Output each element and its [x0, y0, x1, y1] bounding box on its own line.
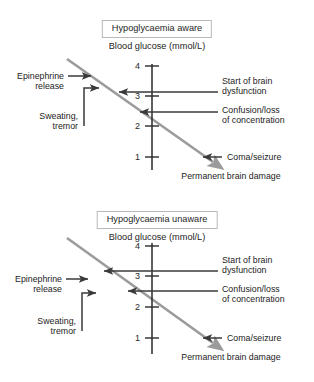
label-start-of-brain-dysfunction-aware: Start of brain dysfunction: [222, 76, 272, 96]
y-tick-label-2: 2: [128, 121, 140, 131]
sweating-line2: tremor: [53, 121, 78, 131]
label-confusion-loss-aware: Confusion/loss of concentration: [222, 105, 285, 125]
epinephrine-line2: release: [35, 81, 64, 91]
panel-title-aware: Hypoglycaemia aware: [102, 20, 212, 38]
label-sweating-tremor-aware: Sweating, tremor: [6, 111, 78, 131]
y-tick-label-3: 3: [128, 91, 140, 101]
y-tick-label-4: 4: [128, 61, 140, 71]
brain-line1: Start of brain: [222, 76, 272, 86]
hypoglycaemia-awareness-figure: Hypoglycaemia aware Blood glucose (mmol/…: [0, 0, 314, 382]
label-confusion-loss-unaware: Confusion/loss of concentration: [222, 284, 285, 304]
confusion-line2: of concentration: [222, 115, 285, 125]
glucose-decline-line: [67, 59, 213, 162]
label-permanent-brain-damage-aware: Permanent brain damage: [155, 171, 307, 181]
brain-line2: dysfunction: [222, 265, 267, 275]
panel-title-unaware: Hypoglycaemia unaware: [97, 211, 218, 229]
label-permanent-brain-damage-unaware: Permanent brain damage: [155, 352, 307, 362]
epinephrine-line1: Epinephrine: [17, 71, 64, 81]
epinephrine-line1: Epinephrine: [15, 274, 62, 284]
sweating-line2: tremor: [51, 326, 76, 336]
y-tick-label-1: 1: [128, 333, 140, 343]
y-axis-caption: Blood glucose (mmol/L): [109, 41, 206, 52]
panel-hypoglycaemia-unaware: Hypoglycaemia unaware Blood glucose (mmo…: [0, 191, 314, 382]
leader-sweating-tremor: [82, 293, 96, 331]
brain-line2: dysfunction: [222, 86, 267, 96]
label-epinephrine-release-aware: Epinephrine release: [0, 71, 64, 91]
y-tick-label-4: 4: [128, 241, 140, 251]
epinephrine-line2: release: [33, 284, 62, 294]
brain-line1: Start of brain: [222, 255, 272, 265]
label-epinephrine-release-unaware: Epinephrine release: [0, 274, 62, 294]
sweating-line1: Sweating,: [39, 111, 78, 121]
confusion-line2: of concentration: [222, 294, 285, 304]
confusion-line1: Confusion/loss: [222, 105, 280, 115]
confusion-line1: Confusion/loss: [222, 284, 280, 294]
panel-hypoglycaemia-aware: Hypoglycaemia aware Blood glucose (mmol/…: [0, 0, 314, 191]
y-axis-caption: Blood glucose (mmol/L): [109, 232, 206, 243]
label-coma-seizure-unaware: Coma/seizure: [227, 333, 281, 343]
y-tick-label-3: 3: [128, 271, 140, 281]
y-tick-label-2: 2: [128, 302, 140, 312]
label-coma-seizure-aware: Coma/seizure: [227, 152, 281, 162]
leader-sweating-tremor: [84, 88, 99, 126]
label-sweating-tremor-unaware: Sweating, tremor: [4, 316, 76, 336]
label-start-of-brain-dysfunction-unaware: Start of brain dysfunction: [222, 255, 272, 275]
sweating-line1: Sweating,: [37, 316, 76, 326]
y-tick-label-1: 1: [128, 152, 140, 162]
